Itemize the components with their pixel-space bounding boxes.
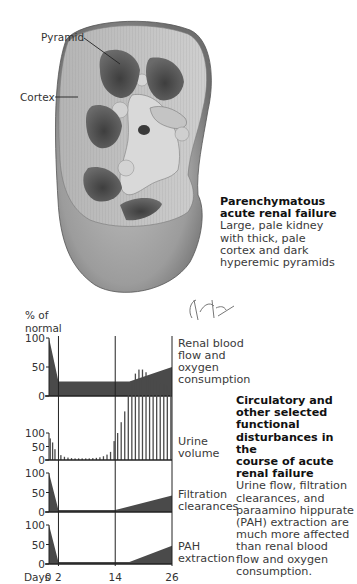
panel-label-line: volume	[178, 448, 219, 460]
y-tick-label: 50	[32, 441, 45, 453]
y-tick-label: 100	[25, 332, 45, 344]
x-tick-label: 0	[45, 571, 52, 583]
urine-bar	[113, 441, 114, 460]
y-tick-label: 0	[38, 390, 45, 402]
urine-bar	[131, 382, 132, 460]
x-tick-label: 26	[165, 571, 179, 583]
urine-bar	[163, 384, 164, 460]
y-tick-label: 50	[32, 487, 45, 499]
urine-bar	[156, 382, 157, 460]
caption-title-line: disturbances in the	[236, 432, 357, 456]
panel-label-line: extraction	[178, 553, 235, 565]
caption-body-line: flow and oxygen	[236, 554, 357, 566]
caption-body-line: Urine flow, filtration	[236, 480, 357, 492]
panel-label-urine-volume: Urine volume	[178, 436, 219, 460]
x-tick-label: 14	[109, 571, 123, 583]
urine-bar	[117, 433, 118, 460]
y-tick-label: 100	[25, 519, 45, 531]
x-tick-label: 2	[55, 571, 62, 583]
urine-bar	[138, 370, 139, 460]
urine-bar	[160, 383, 161, 460]
urine-bar	[170, 387, 171, 460]
y-tick-label: 0	[38, 506, 45, 518]
urine-bar	[149, 376, 150, 460]
urine-bar	[52, 442, 53, 460]
y-tick-label: 100	[25, 427, 45, 439]
y-tick-label: 50	[32, 361, 45, 373]
caption-circulatory: Circulatory and other selected functiona…	[236, 395, 357, 578]
urine-bar	[145, 372, 146, 460]
panel-label-pah: PAH extraction	[178, 541, 235, 565]
urine-bar	[128, 395, 129, 460]
urine-bar	[135, 374, 136, 460]
urine-bar	[121, 422, 122, 460]
panel-area	[49, 525, 172, 564]
urine-bar	[142, 370, 143, 460]
y-tick-label: 50	[32, 539, 45, 551]
y-tick-label: 100	[25, 467, 45, 479]
urine-bar	[110, 452, 111, 460]
caption-body-line: than renal blood	[236, 541, 357, 553]
urine-bar	[106, 455, 107, 460]
y-tick-label: 0	[38, 454, 45, 466]
panel-label-renal-blood-flow: Renal blood flow and oxygen consumption	[178, 338, 250, 386]
urine-bar	[54, 449, 55, 460]
panel-label-line: clearances	[178, 501, 238, 513]
urine-bar	[50, 438, 51, 460]
y-tick-label: 0	[38, 558, 45, 570]
caption-title-line: functional	[236, 419, 357, 431]
panel-label-filtration: Filtration clearances	[178, 489, 238, 513]
panel-label-line: consumption	[178, 374, 250, 386]
urine-bar	[152, 379, 153, 460]
urine-bar	[167, 386, 168, 460]
caption-body-line: clearances, and	[236, 493, 357, 505]
caption-body-line: consumption.	[236, 566, 357, 578]
urine-bar	[124, 411, 125, 460]
panel-area	[49, 473, 172, 512]
